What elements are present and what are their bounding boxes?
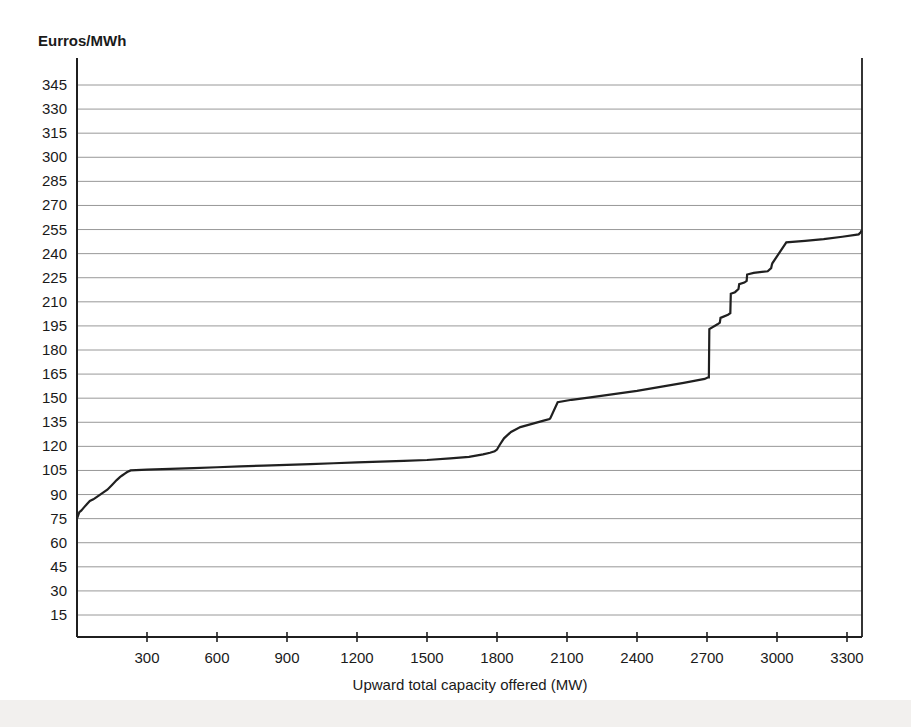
x-tick-label: 2700 (690, 649, 723, 666)
x-tick-label: 600 (204, 649, 229, 666)
x-tick-label: 1800 (480, 649, 513, 666)
chart-container: Eurros/MWh 15304560759010512013515016518… (0, 0, 911, 727)
offer-stack-chart: Eurros/MWh 15304560759010512013515016518… (0, 0, 911, 727)
y-tick-label: 240 (42, 245, 67, 262)
y-tick-label: 135 (42, 413, 67, 430)
y-tick-label: 45 (50, 558, 67, 575)
scan-smudge (0, 700, 911, 727)
y-tick-label: 300 (42, 148, 67, 165)
y-tick-label: 345 (42, 76, 67, 93)
y-tick-label: 330 (42, 100, 67, 117)
y-tick-label: 195 (42, 317, 67, 334)
y-tick-label: 90 (50, 486, 67, 503)
x-tick-label: 3300 (830, 649, 863, 666)
y-tick-label: 150 (42, 389, 67, 406)
y-tick-label: 105 (42, 461, 67, 478)
x-axis-title: Upward total capacity offered (MW) (353, 676, 588, 693)
y-axis-label: Eurros/MWh (38, 32, 126, 49)
x-tick-label: 2100 (550, 649, 583, 666)
y-tick-label: 225 (42, 269, 67, 286)
x-tick-label: 1500 (410, 649, 443, 666)
y-tick-label: 165 (42, 365, 67, 382)
x-tick-label: 1200 (340, 649, 373, 666)
y-tick-label: 30 (50, 582, 67, 599)
x-tick-label: 3000 (760, 649, 793, 666)
y-tick-label: 15 (50, 606, 67, 623)
y-tick-label: 60 (50, 534, 67, 551)
y-tick-label: 270 (42, 196, 67, 213)
y-tick-label: 255 (42, 221, 67, 238)
x-tick-label: 300 (134, 649, 159, 666)
y-tick-label: 180 (42, 341, 67, 358)
y-tick-label: 315 (42, 124, 67, 141)
x-tick-label: 2400 (620, 649, 653, 666)
y-tick-label: 75 (50, 510, 67, 527)
y-tick-label: 120 (42, 437, 67, 454)
y-tick-label: 285 (42, 172, 67, 189)
x-tick-label: 900 (274, 649, 299, 666)
y-tick-label: 210 (42, 293, 67, 310)
